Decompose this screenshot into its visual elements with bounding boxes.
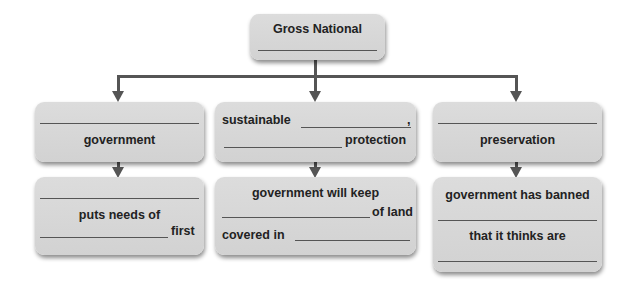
l2-middle-box: government will keep of land covered in [215, 177, 416, 255]
l1-left-text: government [35, 133, 204, 147]
connector-horizontal [117, 75, 518, 78]
root-title: Gross National [250, 22, 385, 36]
l2-right-box: government has banned that it thinks are [433, 177, 602, 272]
l2-left-box: puts needs of first [35, 177, 204, 255]
l2-middle-blank-2[interactable] [295, 240, 410, 241]
l1-right-blank-line[interactable] [438, 123, 597, 124]
l2-middle-prefix: covered in [222, 228, 285, 242]
l1-middle-box: sustainable , protection [215, 102, 416, 162]
arrow-down-icon [112, 91, 124, 102]
l2-right-blank-1[interactable] [438, 220, 597, 221]
l2-left-blank-1[interactable] [40, 198, 199, 199]
l1-middle-comma: , [407, 113, 410, 127]
l1-left-box: government [35, 102, 204, 162]
l2-left-text: puts needs of [35, 208, 204, 222]
arrow-down-icon [309, 91, 321, 102]
l2-right-blank-2[interactable] [438, 261, 597, 262]
l1-right-text: preservation [433, 133, 602, 147]
l2-left-suffix: first [171, 224, 195, 238]
l1-middle-blank-2[interactable] [224, 147, 342, 148]
l2-left-blank-2[interactable] [40, 237, 168, 238]
l1-left-blank-line[interactable] [40, 123, 199, 124]
l2-right-line3: that it thinks are [433, 229, 602, 243]
l2-middle-suffix: of land [372, 205, 413, 219]
l1-right-box: preservation [433, 102, 602, 162]
arrow-down-icon [510, 91, 522, 102]
l1-middle-suffix: protection [345, 133, 406, 147]
l2-middle-blank-1[interactable] [222, 217, 370, 218]
root-blank-line[interactable] [258, 50, 377, 51]
root-box: Gross National [250, 14, 385, 60]
l2-middle-line1: government will keep [215, 186, 416, 200]
l1-middle-blank-1[interactable] [301, 127, 411, 128]
l1-middle-prefix: sustainable [222, 113, 291, 127]
l2-right-line1: government has banned [433, 188, 602, 202]
